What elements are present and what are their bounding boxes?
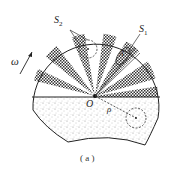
label-omega: ω — [11, 56, 19, 67]
label-a: A — [119, 50, 124, 58]
label-origin: O — [86, 99, 93, 109]
label-rho: ρ — [107, 105, 111, 114]
label-s2: S2 — [54, 15, 63, 28]
figure-caption: ( a ) — [80, 154, 95, 163]
sector-fan — [30, 30, 160, 97]
label-s1: S1 — [139, 24, 148, 37]
